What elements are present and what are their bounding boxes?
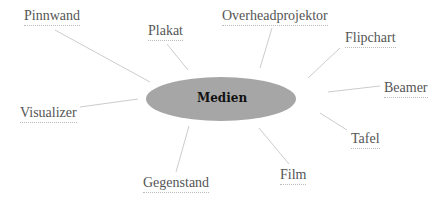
center-node-label: Medien <box>0 91 444 105</box>
node-label-gegenstand: Gegenstand <box>143 175 209 193</box>
node-label-plakat: Plakat <box>148 23 183 41</box>
node-label-overheadprojektor: Overheadprojektor <box>222 8 328 26</box>
connector-line <box>176 126 189 172</box>
node-label-tafel: Tafel <box>351 131 380 149</box>
connector-line <box>260 28 272 68</box>
node-label-beamer: Beamer <box>384 80 428 98</box>
node-label-film: Film <box>280 167 306 185</box>
connector-line <box>167 44 188 70</box>
node-label-visualizer: Visualizer <box>20 105 77 123</box>
node-label-pinnwand: Pinnwand <box>24 8 80 26</box>
node-label-flipchart: Flipchart <box>345 30 396 48</box>
connector-line <box>320 113 347 130</box>
connector-line <box>259 128 289 164</box>
connector-line <box>308 48 340 78</box>
connector-line <box>55 30 150 82</box>
